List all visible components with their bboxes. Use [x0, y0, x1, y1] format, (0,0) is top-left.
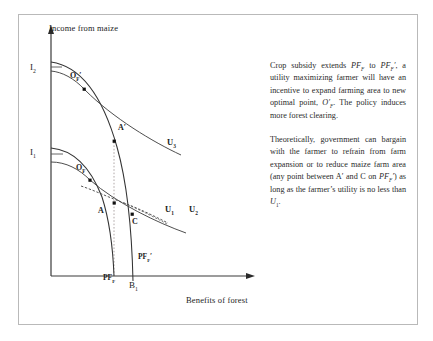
paragraph-1: Crop subsidy extends PFF to PFF′, a util… — [270, 60, 406, 122]
point-label-a: A — [98, 207, 104, 215]
curve-label-pff-prime: PFF′ — [138, 253, 152, 261]
chart-canvas — [18, 14, 266, 325]
marker-a — [113, 201, 116, 204]
point-label-c: C — [132, 218, 138, 226]
curve-label-u2: U2 — [189, 205, 198, 214]
x-tick-b1: B1 — [129, 281, 138, 290]
point-label-of: OF — [76, 164, 85, 172]
curve-u1-tangent — [124, 203, 167, 224]
page-root: Income from maize Benefits of forest I2 … — [0, 0, 433, 341]
point-label-of-prime: OF′ — [70, 72, 82, 80]
y-tick-i1: I1 — [30, 148, 36, 157]
point-label-a-prime: A′ — [118, 124, 126, 132]
marker-a-prime — [113, 140, 116, 143]
curve-label-u3: U3 — [167, 138, 176, 147]
marker-of-prime — [83, 88, 86, 91]
x-axis-title: Benefits of forest — [186, 296, 248, 305]
marker-c — [131, 213, 134, 216]
y-axis-title: Income from maize — [49, 24, 118, 33]
x-axis — [51, 273, 255, 279]
y-tick-i2: I2 — [30, 63, 36, 72]
explanatory-text: Crop subsidy extends PFF to PFF′, a util… — [270, 60, 406, 220]
paragraph-2: Theoretically, government can bargain wi… — [270, 134, 406, 208]
curve-label-u1: U1 — [165, 205, 174, 214]
curve-pff-prime — [51, 62, 133, 281]
economics-diagram: Income from maize Benefits of forest I2 … — [18, 14, 266, 325]
marker-of — [88, 179, 91, 182]
curve-label-pff: PFF — [103, 274, 115, 282]
